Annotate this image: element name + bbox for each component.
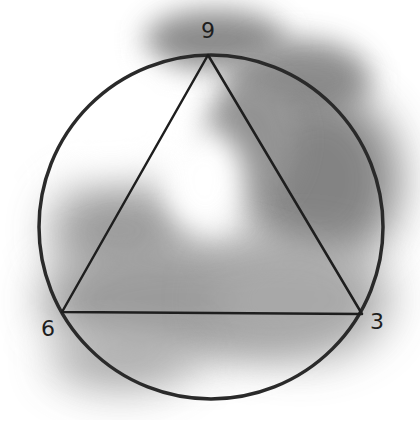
label-3: 3 (370, 309, 384, 334)
label-6: 6 (41, 316, 55, 341)
enneagram-diagram (0, 0, 420, 426)
label-9: 9 (201, 18, 215, 43)
